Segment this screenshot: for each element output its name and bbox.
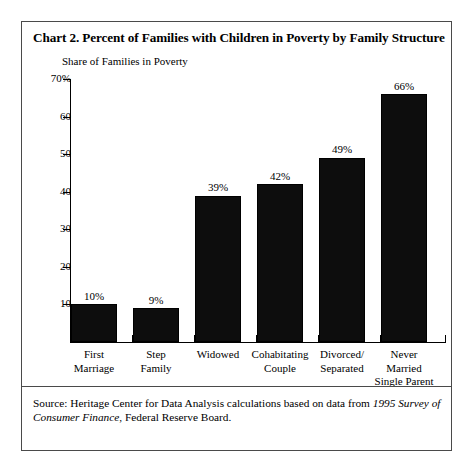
x-label-line: Step (123, 348, 189, 362)
source-divider (22, 386, 451, 387)
x-label-line: Family (123, 362, 189, 376)
bar-first-marriage (71, 304, 117, 342)
bar-never-married (381, 94, 427, 342)
bar-divorced (319, 158, 365, 342)
x-label-step-family: Step Family (123, 348, 189, 375)
x-tick-6 (445, 335, 446, 343)
y-tick-mark-60 (63, 117, 71, 118)
x-label-line: Couple (244, 362, 316, 376)
x-label-first-marriage: First Marriage (61, 348, 127, 375)
x-label-line: Marriage (61, 362, 127, 376)
x-label-line: Widowed (185, 348, 251, 362)
x-label-line: Married (366, 362, 442, 376)
source-suffix: , Federal Reserve Board. (119, 411, 231, 423)
x-axis-line (70, 342, 446, 343)
bar-value-step-family: 9% (133, 294, 179, 306)
y-tick-mark-20 (63, 267, 71, 268)
x-label-widowed: Widowed (185, 348, 251, 362)
bar-value-widowed: 39% (195, 181, 241, 193)
bar-step-family (133, 308, 179, 342)
y-tick-mark-40 (63, 192, 71, 193)
bar-widowed (195, 196, 241, 343)
x-label-line: First (61, 348, 127, 362)
x-label-line: Never (366, 348, 442, 362)
x-label-cohabitating: Cohabitating Couple (244, 348, 316, 375)
x-label-never-married: Never Married Single Parent (366, 348, 442, 389)
source-prefix: Source: Heritage Center for Data Analysi… (33, 397, 373, 409)
y-tick-mark-10 (63, 304, 71, 305)
bar-value-cohabitating: 42% (257, 170, 303, 182)
source-note: Source: Heritage Center for Data Analysi… (33, 396, 443, 424)
chart-figure: Chart 2. Percent of Families with Childr… (21, 21, 452, 451)
y-tick-mark-50 (63, 154, 71, 155)
bar-cohabitating (257, 184, 303, 342)
x-label-line: Cohabitating (244, 348, 316, 362)
y-tick-mark-70 (63, 79, 71, 80)
bar-value-divorced: 49% (319, 143, 365, 155)
bar-value-first-marriage: 10% (71, 290, 117, 302)
bar-value-never-married: 66% (381, 80, 427, 92)
y-tick-mark-30 (63, 229, 71, 230)
